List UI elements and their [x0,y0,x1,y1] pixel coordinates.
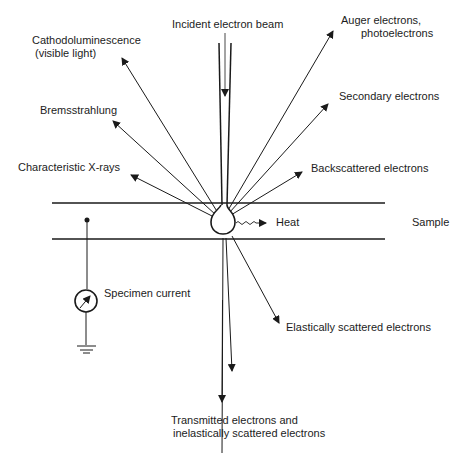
label-sample: Sample [412,216,449,229]
incident-beam [219,33,231,205]
bremsstrahlung-arrow [113,121,216,215]
label-secondary-electrons: Secondary electrons [339,90,439,103]
label-transmitted: Transmitted electrons and inelastically … [171,414,325,440]
label-heat: Heat [276,216,299,229]
backscattered-electrons-arrow [231,172,302,215]
inelastically-scattered-arrow [226,238,232,371]
label-auger-line1: Auger electrons, [341,14,433,27]
label-cathodoluminescence-line2: (visible light) [32,47,141,60]
label-backscattered-electrons: Backscattered electrons [311,162,428,175]
transmitted-electrons-arrow [222,300,223,402]
label-specimen-current: Specimen current [104,287,190,300]
label-bremsstrahlung: Bremsstrahlung [40,104,117,117]
label-cathodoluminescence-line1: Cathodoluminescence [32,34,141,47]
specimen-current-circuit [75,218,97,354]
heat-arrow [236,222,266,225]
characteristic-xrays-arrow [131,175,214,217]
label-transmitted-line1: Transmitted electrons and [171,414,325,427]
cathodoluminescence-arrow [122,58,218,213]
label-elastically-scattered: Elastically scattered electrons [286,321,431,334]
interaction-diagram [0,0,460,453]
label-characteristic-xrays: Characteristic X-rays [18,161,120,174]
label-transmitted-line2: inelastically scattered electrons [171,427,325,440]
elastically-scattered-arrow [232,236,279,323]
label-auger-line2: photoelectrons [341,27,433,40]
ground-icon [77,346,96,353]
interaction-volume [211,205,235,234]
label-auger: Auger electrons, photoelectrons [341,14,433,40]
secondary-electrons-arrow [229,104,328,213]
label-cathodoluminescence: Cathodoluminescence (visible light) [32,34,141,60]
label-incident-beam: Incident electron beam [172,18,283,31]
